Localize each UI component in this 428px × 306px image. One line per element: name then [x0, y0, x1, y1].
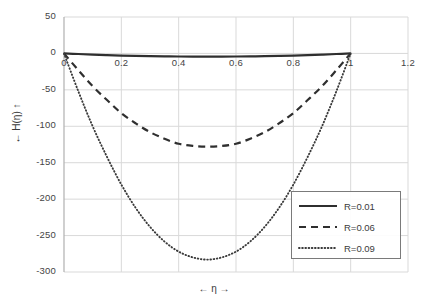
chart-container: 500-50-100-150-200-250-30000.20.40.60.81… — [0, 0, 428, 306]
y-tick-label: 0 — [14, 46, 56, 57]
y-tick-label: -250 — [14, 229, 56, 240]
x-axis-title: ← η → — [0, 283, 428, 294]
legend-label-0: R=0.01 — [344, 201, 375, 212]
legend-label-1: R=0.06 — [344, 222, 375, 233]
legend: R=0.01 R=0.06 R=0.09 — [291, 191, 401, 259]
legend-swatch-dashed — [298, 222, 338, 232]
x-tick-label: 0.4 — [159, 57, 199, 68]
x-tick-label: 0.8 — [273, 57, 313, 68]
x-tick-label: 0.6 — [216, 57, 256, 68]
legend-swatch-solid — [298, 201, 338, 211]
y-axis-title: ← H(η) ↑ — [11, 89, 22, 159]
legend-item-2: R=0.09 — [298, 239, 398, 257]
legend-swatch-dotted — [298, 243, 338, 253]
x-tick-label: 1.2 — [388, 57, 428, 68]
y-tick-label: -300 — [14, 265, 56, 276]
x-tick-label: 0 — [44, 57, 84, 68]
legend-item-1: R=0.06 — [298, 218, 398, 236]
legend-label-2: R=0.09 — [344, 243, 375, 254]
legend-item-0: R=0.01 — [298, 197, 398, 215]
y-tick-label: 50 — [14, 10, 56, 21]
y-tick-label: -200 — [14, 192, 56, 203]
plot-area — [0, 0, 428, 306]
x-tick-label: 1 — [331, 57, 371, 68]
x-tick-label: 0.2 — [101, 57, 141, 68]
